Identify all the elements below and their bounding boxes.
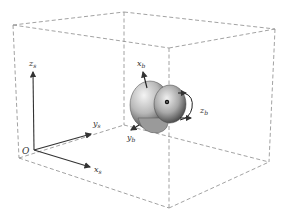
x-s-axis xyxy=(34,150,90,167)
z-s-axis xyxy=(33,72,34,150)
x-s-label: xs xyxy=(94,165,102,175)
y-b-label: yb xyxy=(126,133,136,143)
y-s-axis xyxy=(34,134,91,150)
diagram-canvas: O zs ys xs xb yb zb xyxy=(0,0,284,219)
origin-label: O xyxy=(22,146,30,156)
z-s-label: zs xyxy=(28,59,36,69)
y-s-label: ys xyxy=(92,119,101,129)
inertial-frame xyxy=(33,72,91,167)
x-b-label: xb xyxy=(137,59,146,69)
z-b-label: zb xyxy=(199,106,208,116)
